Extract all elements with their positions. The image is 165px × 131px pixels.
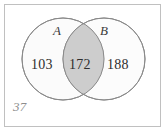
set-a-label: A: [53, 24, 61, 37]
universe-outside-count: 37: [13, 100, 27, 113]
venn-diagram-figure: A B 103 172 188 37: [0, 0, 165, 131]
count-b-only: 188: [107, 58, 129, 72]
count-intersection: 172: [69, 58, 91, 72]
set-b-label: B: [100, 24, 108, 37]
count-a-only: 103: [31, 58, 53, 72]
